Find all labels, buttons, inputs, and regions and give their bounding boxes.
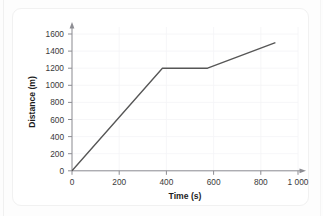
x-tick-label: 1 000	[288, 177, 309, 187]
y-axis-arrowhead	[70, 22, 75, 29]
page-edge-right-divider	[320, 0, 321, 216]
vertical-gridlines	[72, 27, 298, 171]
y-tick-label: 200	[50, 149, 64, 159]
y-tick-label: 1200	[46, 63, 65, 73]
x-tick-label: 600	[207, 177, 221, 187]
y-tick-label: 0	[59, 166, 64, 176]
y-tick-label: 1400	[46, 46, 65, 56]
y-axis	[68, 22, 74, 171]
y-tick-label: 600	[50, 115, 64, 125]
y-tick-label: 800	[50, 97, 64, 107]
x-tick-label: 800	[254, 177, 268, 187]
y-axis-tick-labels: 1600 1400 1200 1000 800 600 400 200 0	[46, 29, 65, 176]
y-tick-label: 1000	[46, 80, 65, 90]
x-axis	[72, 168, 306, 174]
y-axis-title: Distance (m)	[27, 76, 37, 128]
page-edge-left-divider	[3, 0, 4, 216]
y-tick-label: 400	[50, 132, 64, 142]
x-tick-label: 0	[70, 177, 75, 187]
x-tick-label: 400	[159, 177, 173, 187]
x-axis-arrowhead	[300, 168, 307, 173]
horizontal-gridlines	[72, 34, 298, 171]
chart-card: 1600 1400 1200 1000 800 600 400 200 0 0 …	[12, 8, 309, 206]
x-axis-tick-labels: 0 200 400 600 800 1 000	[70, 177, 309, 187]
page-root: 1600 1400 1200 1000 800 600 400 200 0 0 …	[0, 0, 323, 216]
distance-series-line	[72, 43, 275, 171]
x-tick-label: 200	[112, 177, 126, 187]
y-tick-label: 1600	[46, 29, 65, 39]
x-axis-title: Time (s)	[169, 191, 202, 201]
distance-time-line-chart: 1600 1400 1200 1000 800 600 400 200 0 0 …	[13, 9, 310, 207]
